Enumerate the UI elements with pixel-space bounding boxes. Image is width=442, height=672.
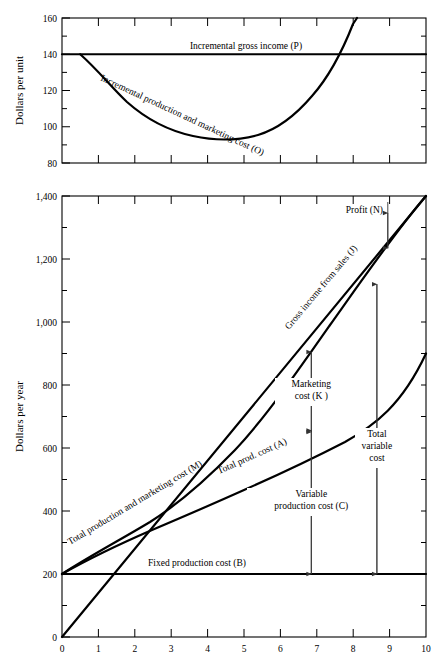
variable-production-cost-label-line1: Variable	[295, 489, 327, 499]
incremental-ytick-80: 80	[48, 159, 58, 169]
total-production-marketing-cost-label: Total production and marketing cost (M)	[66, 458, 204, 547]
totals-ytick-1400: 1,400	[36, 192, 58, 202]
totals-xtick-6: 6	[278, 644, 283, 654]
gross-income-from-sales-line	[62, 196, 426, 637]
fixed-production-cost-label: Fixed production cost (B)	[148, 558, 246, 569]
annotation-total-variable-cost: Total variable cost Total variable cost	[0, 0, 401, 574]
totals-xtick-4: 4	[205, 644, 210, 654]
totals-ytick-200: 200	[43, 570, 58, 580]
totals-xtick-2: 2	[132, 644, 137, 654]
totals-ytick-1200: 1,200	[36, 255, 58, 265]
totals-ytick-1000: 1,000	[36, 318, 58, 328]
incremental-ytick-160: 160	[43, 14, 58, 24]
totals-xtick-9: 9	[387, 644, 392, 654]
total-variable-cost-label-line3: cost	[369, 453, 385, 463]
incremental-cost-curve	[80, 18, 357, 139]
totals-xtick-10: 10	[421, 644, 431, 654]
totals-ytick-800: 800	[43, 381, 58, 391]
annotation-profit-n: Profit (N)	[346, 202, 388, 249]
marketing-cost-k-label-line2: cost (K )	[295, 391, 328, 402]
totals-ytick-600: 600	[43, 444, 58, 454]
profit-n-label: Profit (N)	[346, 205, 383, 216]
totals-xtick-0: 0	[60, 644, 65, 654]
totals-xtick-1: 1	[96, 644, 101, 654]
totals-ytick-400: 400	[43, 507, 58, 517]
totals-ytick-0: 0	[52, 633, 57, 643]
incremental-ytick-100: 100	[43, 122, 58, 132]
totals-chart: 0 200 400 600 800 1,000 1,200 1,400 0 1 …	[0, 0, 431, 654]
annotation-marketing-cost-k: Marketing cost (K ) Marketing cost (K)	[0, 0, 348, 432]
incremental-y-axis-title: Dollars per unit	[13, 56, 25, 125]
totals-xtick-7: 7	[314, 644, 319, 654]
totals-xtick-5: 5	[242, 644, 247, 654]
incremental-chart: 80 100 120 140 160 Dollars per unit Incr…	[13, 14, 426, 169]
totals-xtick-3: 3	[169, 644, 174, 654]
incremental-ytick-120: 120	[43, 86, 58, 96]
economic-optimum-figure: 80 100 120 140 160 Dollars per unit Incr…	[0, 0, 442, 672]
totals-y-axis-title: Dollars per year	[13, 381, 25, 452]
incremental-cost-label: Incremental production and marketing cos…	[99, 73, 266, 159]
totals-xtick-8: 8	[351, 644, 356, 654]
total-variable-cost-label-line1: Total	[367, 429, 387, 439]
total-variable-cost-label-line2: variable	[362, 441, 393, 451]
marketing-cost-k-label-line1: Marketing	[292, 379, 332, 389]
incremental-gross-income-label: Incremental gross income (P)	[190, 41, 302, 52]
variable-production-cost-label-line2: production cost (C)	[274, 501, 348, 512]
incremental-cost-label-group: Incremental production and marketing cos…	[99, 73, 266, 159]
total-production-cost-label: Total prod. cost (A)	[216, 436, 289, 476]
figure-container: 80 100 120 140 160 Dollars per unit Incr…	[0, 0, 442, 672]
gross-income-from-sales-label: Gross income from sales (J)	[283, 243, 360, 332]
incremental-ytick-140: 140	[43, 50, 58, 60]
